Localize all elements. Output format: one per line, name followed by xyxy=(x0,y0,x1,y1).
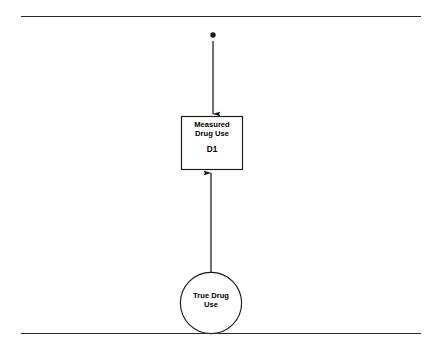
path-diagram-canvas xyxy=(0,0,442,351)
measured-drug-use-box xyxy=(182,117,243,170)
diagram-page: Measured Drug Use D1 True Drug Use xyxy=(0,0,442,351)
true-drug-use-circle xyxy=(180,272,241,333)
disturbance-dot xyxy=(210,32,215,37)
bottom-horizontal-rule xyxy=(21,333,421,334)
